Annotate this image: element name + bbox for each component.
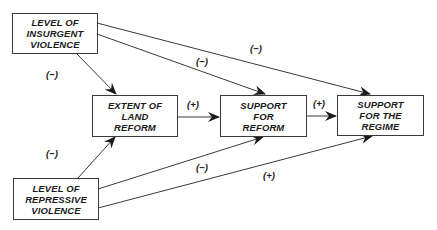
edge-sign-insurgent-support-regime: (−): [250, 43, 262, 54]
edge-sign-repressive-support-regime: (+): [263, 170, 275, 181]
edge-sign-repressive-support-reform: (−): [196, 162, 208, 173]
edge-sign-insurgent-land-reform: (−): [46, 69, 58, 80]
node-label-line: VIOLENCE: [31, 205, 80, 216]
node-label-line: REFORM: [114, 122, 156, 133]
node-label-line: VIOLENCE: [30, 39, 79, 50]
edge-repressive-to-land-reform: [78, 137, 115, 178]
node-label-line: EXTENT OF: [108, 100, 162, 111]
edge-insurgent-to-land-reform: [76, 53, 116, 94]
edge-repressive-to-support-reform: [98, 137, 263, 189]
edge-sign-support-reform-support-regime: (+): [313, 98, 325, 109]
node-level-of-repressive-violence: LEVEL OF REPRESSIVE VIOLENCE: [13, 178, 99, 220]
edge-repressive-to-support-regime: [98, 136, 372, 208]
node-label-line: LEVEL OF: [31, 17, 78, 28]
node-label-line: LEVEL OF: [32, 183, 79, 194]
node-label-line: INSURGENT: [27, 28, 84, 39]
edge-sign-insurgent-support-reform: (−): [196, 56, 208, 67]
edge-sign-land-reform-support-reform: (+): [187, 99, 199, 110]
node-support-for-the-regime: SUPPORT FOR THE REGIME: [337, 95, 424, 136]
node-label-line: REFORM: [243, 122, 285, 133]
node-label-line: REGIME: [361, 121, 399, 132]
path-diagram: LEVEL OF INSURGENT VIOLENCE EXTENT OF LA…: [0, 0, 437, 230]
edge-insurgent-to-support-regime: [97, 23, 370, 94]
node-label-line: FOR: [253, 111, 273, 122]
node-label-line: FOR THE: [359, 110, 401, 121]
node-label-line: LAND: [122, 111, 149, 122]
node-level-of-insurgent-violence: LEVEL OF INSURGENT VIOLENCE: [12, 13, 98, 54]
node-label-line: SUPPORT: [357, 99, 403, 110]
node-extent-of-land-reform: EXTENT OF LAND REFORM: [92, 95, 178, 137]
node-label-line: SUPPORT: [240, 100, 286, 111]
node-support-for-reform: SUPPORT FOR REFORM: [220, 95, 307, 137]
node-label-line: REPRESSIVE: [25, 194, 87, 205]
edge-insurgent-to-support-reform: [97, 34, 265, 94]
edge-sign-repressive-land-reform: (−): [46, 148, 58, 159]
